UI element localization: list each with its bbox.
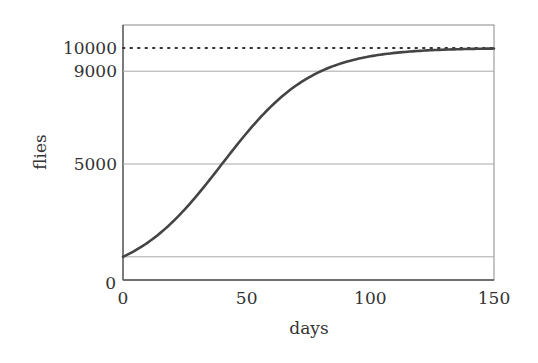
- plot-frame: [123, 25, 494, 280]
- x-tick-label: 50: [236, 288, 258, 308]
- x-tick-labels: 050100150: [118, 288, 511, 308]
- y-tick-labels: 05000900010000: [63, 38, 117, 293]
- y-tick-label: 10000: [63, 38, 117, 58]
- x-tick-label: 0: [118, 288, 129, 308]
- logistic-growth-chart: 05000900010000 050100150 flies days: [0, 0, 538, 363]
- y-tick-label: 0: [105, 273, 116, 293]
- gridlines: [123, 48, 494, 257]
- y-tick-label: 9000: [74, 61, 117, 81]
- x-axis-label: days: [289, 318, 328, 338]
- flies-growth-curve: [123, 49, 494, 257]
- x-tick-label: 100: [354, 288, 386, 308]
- x-tick-label: 150: [478, 288, 510, 308]
- y-tick-label: 5000: [74, 154, 117, 174]
- y-axis-label: flies: [30, 134, 50, 170]
